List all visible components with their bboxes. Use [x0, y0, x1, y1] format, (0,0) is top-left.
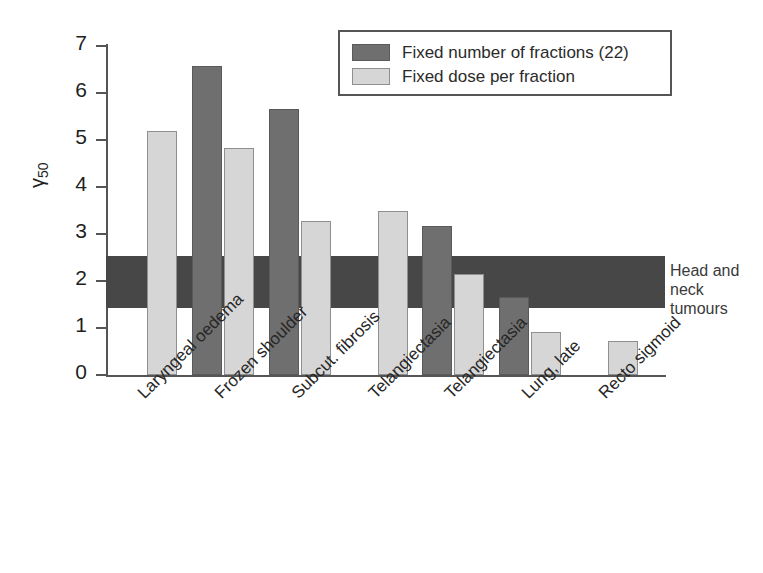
y-tick-4: 4 [96, 186, 107, 188]
legend-swatch-dark-icon [352, 44, 390, 61]
y-tick-6: 6 [96, 92, 107, 94]
y-axis-title-symbol: γ [26, 178, 48, 188]
y-tick-label-0: 0 [75, 361, 87, 382]
legend-item-fixed-number-of-fractions: Fixed number of fractions (22) [352, 40, 660, 64]
legend-label-series-1: Fixed number of fractions (22) [402, 43, 629, 62]
chart-legend: Fixed number of fractions (22) Fixed dos… [338, 30, 672, 96]
chart-figure: γ50 01234567 Head and neck tumours Laryn… [0, 0, 763, 573]
y-tick-label-1: 1 [75, 314, 87, 335]
y-tick-label-2: 2 [75, 267, 87, 288]
legend-item-fixed-dose-per-fraction: Fixed dose per fraction [352, 64, 660, 88]
y-tick-label-4: 4 [75, 173, 87, 194]
y-tick-0: 0 [96, 374, 107, 376]
bar-series2-group2 [224, 148, 254, 375]
y-tick-label-5: 5 [75, 126, 87, 147]
reference-band-label: Head and neck tumours [670, 261, 763, 318]
y-tick-3: 3 [96, 233, 107, 235]
y-tick-1: 1 [96, 327, 107, 329]
bar-series2-group1 [147, 131, 177, 375]
y-axis-title-subscript: 50 [35, 162, 51, 178]
y-axis-title: γ50 [26, 162, 49, 188]
y-tick-label-3: 3 [75, 220, 87, 241]
y-tick-label-7: 7 [75, 32, 87, 53]
y-tick-7: 7 [96, 45, 107, 47]
legend-swatch-light-icon [352, 68, 390, 85]
legend-label-series-2: Fixed dose per fraction [402, 67, 575, 86]
y-tick-5: 5 [96, 139, 107, 141]
y-tick-label-6: 6 [75, 79, 87, 100]
